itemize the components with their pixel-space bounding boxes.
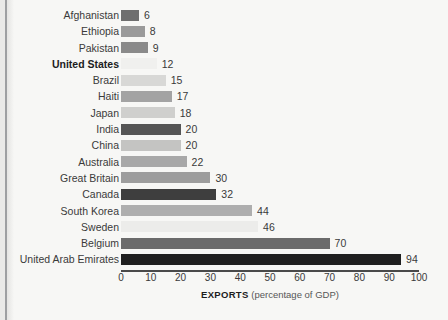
bar — [121, 205, 252, 216]
bar-value-label: 20 — [186, 139, 198, 151]
bar-value-label: 94 — [406, 253, 418, 265]
bar — [121, 42, 148, 53]
bar — [121, 254, 401, 265]
bar-row: South Korea44 — [0, 205, 448, 221]
bar-row: Ethiopia8 — [0, 25, 448, 41]
bar-category-label: Australia — [0, 156, 119, 168]
bar — [121, 10, 139, 21]
bar-row: Afghanistan6 — [0, 9, 448, 25]
bar — [121, 172, 210, 183]
x-axis-title-strong: EXPORTS — [201, 289, 249, 300]
bar-category-label: Afghanistan — [0, 9, 119, 21]
x-axis-tick-label: 60 — [294, 272, 305, 284]
bar-value-label: 32 — [221, 188, 233, 200]
bar-value-label: 44 — [257, 205, 269, 217]
bar-category-label: Belgium — [0, 237, 119, 249]
bar-row: Pakistan9 — [0, 42, 448, 58]
bar-category-label: South Korea — [0, 205, 119, 217]
bar — [121, 58, 157, 69]
bar-category-label: India — [0, 123, 119, 135]
x-axis-tick-label: 20 — [175, 272, 186, 284]
bar — [121, 75, 166, 86]
bar-category-label: Haiti — [0, 90, 119, 102]
bar-value-label: 9 — [153, 42, 159, 54]
bar-category-label: China — [0, 139, 119, 151]
bar-row: Sweden46 — [0, 221, 448, 237]
x-axis-tick-label: 80 — [354, 272, 365, 284]
bar — [121, 189, 216, 200]
bar — [121, 156, 187, 167]
x-axis-tick-label: 90 — [384, 272, 395, 284]
bar-row: China20 — [0, 139, 448, 155]
bar-row: Japan18 — [0, 107, 448, 123]
bar-value-label: 18 — [180, 107, 192, 119]
x-axis-tick-label: 0 — [118, 272, 124, 284]
bar-value-label: 6 — [144, 9, 150, 21]
bar-value-label: 30 — [215, 172, 227, 184]
bar-value-label: 20 — [186, 123, 198, 135]
bar-row: United Arab Emirates94 — [0, 253, 448, 269]
bar-row: Canada32 — [0, 188, 448, 204]
bar — [121, 107, 175, 118]
bar-row: India20 — [0, 123, 448, 139]
bar-category-label: Sweden — [0, 221, 119, 233]
bar-category-label: Brazil — [0, 74, 119, 86]
bar-row: Belgium70 — [0, 237, 448, 253]
x-axis-title-soft: (percentage of GDP) — [251, 289, 339, 300]
x-axis-tick-label: 30 — [205, 272, 216, 284]
x-axis-title: EXPORTS (percentage of GDP) — [121, 289, 419, 301]
bar-value-label: 8 — [150, 25, 156, 37]
bar-row: Australia22 — [0, 156, 448, 172]
bar-row: Great Britain30 — [0, 172, 448, 188]
bar — [121, 238, 330, 249]
bar-value-label: 46 — [263, 221, 275, 233]
x-axis-tick-label: 50 — [264, 272, 275, 284]
x-axis-tick-label: 40 — [235, 272, 246, 284]
bar — [121, 140, 181, 151]
bar-value-label: 17 — [177, 90, 189, 102]
bar-row: Brazil15 — [0, 74, 448, 90]
bar-value-label: 15 — [171, 74, 183, 86]
x-axis-tick-label: 70 — [324, 272, 335, 284]
bar-value-label: 70 — [335, 237, 347, 249]
bar-value-label: 12 — [162, 58, 174, 70]
bar-row: Haiti17 — [0, 90, 448, 106]
bar — [121, 91, 172, 102]
bar — [121, 124, 181, 135]
bar-category-label: Ethiopia — [0, 25, 119, 37]
bar-value-label: 22 — [192, 156, 204, 168]
x-axis-tick-label: 100 — [411, 272, 428, 284]
bar-category-label: United Arab Emirates — [0, 253, 119, 265]
bar — [121, 26, 145, 37]
bar-row: United States12 — [0, 58, 448, 74]
bar — [121, 221, 258, 232]
bar-category-label: Pakistan — [0, 42, 119, 54]
bar-category-label: Japan — [0, 107, 119, 119]
bar-rows-container: Afghanistan6Ethiopia8Pakistan9United Sta… — [0, 9, 448, 270]
bar-category-label: United States — [0, 58, 119, 70]
bar-category-label: Canada — [0, 188, 119, 200]
x-axis-tick-label: 10 — [145, 272, 156, 284]
bar-category-label: Great Britain — [0, 172, 119, 184]
bar-chart-figure: Afghanistan6Ethiopia8Pakistan9United Sta… — [0, 0, 448, 320]
